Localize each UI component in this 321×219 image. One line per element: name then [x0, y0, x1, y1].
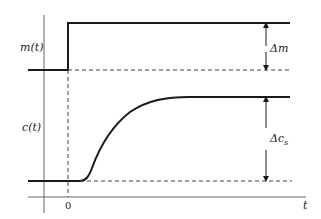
input-signal-label: m(t): [20, 41, 43, 54]
delta-m-text: Δm: [269, 42, 288, 55]
step-response-diagram: m(t) c(t) Δm Δcs 0 t: [0, 0, 321, 219]
origin-tick-label: 0: [65, 200, 71, 211]
delta-cs-subscript: s: [284, 138, 288, 147]
delta-m-label: Δm: [269, 42, 288, 55]
output-response-curve: [28, 97, 290, 181]
delta-cs-text: Δc: [269, 132, 284, 145]
input-step-signal: [28, 23, 290, 70]
output-signal-label: c(t): [22, 121, 41, 134]
delta-cs-label: Δcs: [269, 132, 288, 147]
time-axis-label: t: [303, 199, 308, 212]
